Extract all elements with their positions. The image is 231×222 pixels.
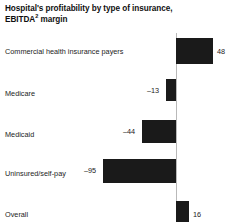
chart-exhibit: Hospital's profitability by type of insu… <box>0 0 231 222</box>
chart-row: Commercial health insurance payers 48 <box>0 30 231 68</box>
chart-row: Overall 16 <box>0 188 231 222</box>
value-label: –95 <box>84 166 96 175</box>
category-label: Uninsured/self-pay <box>5 169 66 178</box>
category-label: Commercial health insurance payers <box>5 47 123 56</box>
chart-row: Medicaid –44 <box>0 111 231 149</box>
chart-title-metric-tail: margin <box>38 15 67 24</box>
value-label: –44 <box>123 127 135 136</box>
bar-medicare <box>166 79 176 101</box>
bar-commercial-health-insurance-payers <box>176 38 213 64</box>
value-label: 48 <box>217 47 225 56</box>
category-label: Overall <box>5 210 28 219</box>
bar-uninsured-self-pay <box>103 159 176 183</box>
chart-row: Medicare –13 <box>0 71 231 109</box>
category-label: Medicaid <box>5 130 34 139</box>
value-label: 16 <box>193 210 201 219</box>
bar-medicaid <box>142 120 176 143</box>
chart-title-line-2: EBITDA2 margin <box>5 14 225 25</box>
chart-title-metric: EBITDA <box>5 15 35 24</box>
bar-overall <box>176 201 189 222</box>
plot-area: Commercial health insurance payers 48 Me… <box>0 30 231 222</box>
value-label: –13 <box>147 86 159 95</box>
chart-row: Uninsured/self-pay –95 <box>0 150 231 188</box>
category-label: Medicare <box>5 89 35 98</box>
chart-title: Hospital's profitability by type of insu… <box>5 3 225 25</box>
